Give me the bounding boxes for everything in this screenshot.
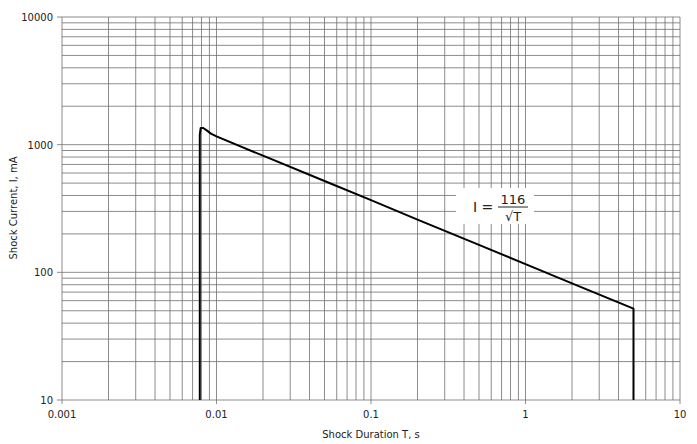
formula-numerator: 116 [501, 192, 526, 207]
x-tick-label: 0.01 [205, 409, 227, 420]
y-axis-label: Shock Current, I, mA [8, 156, 19, 259]
x-tick-label: 0.001 [48, 409, 77, 420]
formula-denominator: √T [505, 209, 521, 224]
x-tick-labels: 0.0010.010.1110 [48, 409, 687, 420]
y-tick-label: 1000 [28, 140, 53, 151]
y-tick-label: 10000 [21, 12, 53, 23]
y-tick-label: 100 [34, 267, 53, 278]
formula-lhs: I = [473, 199, 493, 215]
x-tick-label: 0.1 [363, 409, 379, 420]
x-axis-label: Shock Duration T, s [322, 429, 420, 440]
y-tick-label: 10 [40, 395, 53, 406]
data-series-curve [200, 128, 634, 400]
y-tick-labels: 10100100010000 [21, 12, 53, 406]
x-tick-label: 1 [522, 409, 528, 420]
grid-lines [57, 17, 680, 404]
shock-current-chart: 10100100010000 0.0010.010.1110 I = 116 √… [0, 0, 697, 444]
formula-annotation: I = 116 √T [456, 188, 534, 224]
x-tick-label: 10 [674, 409, 687, 420]
